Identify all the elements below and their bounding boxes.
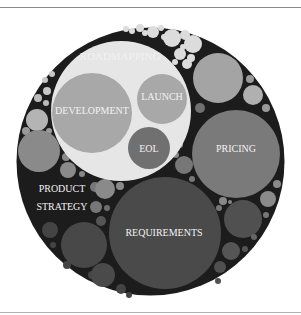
- circle-packing-diagram: ROADMAPPING DEVELOPMENT LAUNCH EOL PRICI…: [0, 0, 301, 315]
- label-pricing: PRICING: [216, 143, 256, 154]
- label-roadmapping: ROADMAPPING: [80, 50, 161, 62]
- label-development: DEVELOPMENT: [55, 105, 129, 116]
- label-product-line2: STRATEGY: [36, 201, 87, 212]
- label-eol: EOL: [139, 143, 158, 154]
- label-requirements: REQUIREMENTS: [125, 227, 202, 238]
- label-launch: LAUNCH: [141, 91, 183, 102]
- circle-pricing: [192, 110, 280, 198]
- label-product-line1: PRODUCT: [39, 183, 86, 194]
